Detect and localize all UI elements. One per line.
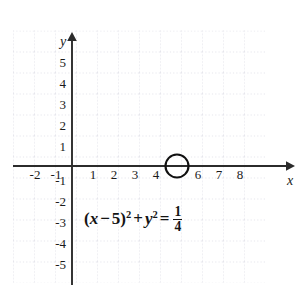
y-tick-label-4: 4	[52, 77, 66, 90]
y-tick-label-5: 5	[52, 56, 66, 69]
x-axis-arrowhead	[286, 161, 295, 171]
y-tick-label-1: 1	[52, 140, 66, 153]
equation-variable-x: x	[90, 209, 99, 228]
y-tick-label--2: -2	[48, 195, 66, 208]
x-tick-label-6: 6	[193, 168, 203, 181]
y-axis-label: y	[60, 35, 66, 49]
equation-exponent-2-right: 2	[153, 209, 158, 220]
x-tick-label-3: 3	[130, 168, 140, 181]
equation-fraction: 14	[173, 205, 182, 234]
y-tick-label-2: 2	[52, 119, 66, 132]
x-tick-label--2: -2	[28, 168, 42, 181]
y-tick-label--3: -3	[48, 216, 66, 229]
graph-canvas	[0, 0, 306, 298]
x-tick-label-2: 2	[109, 168, 119, 181]
x-tick-label-8: 8	[235, 168, 245, 181]
x-tick-label-7: 7	[214, 168, 224, 181]
fraction-numerator: 1	[173, 205, 182, 220]
equation-plus-sign: +	[131, 209, 145, 228]
equation-equals-sign: =	[158, 209, 172, 228]
y-tick-label--1: -1	[52, 174, 66, 187]
x-axis-label: x	[287, 174, 293, 188]
fraction-denominator: 4	[173, 220, 182, 234]
y-tick-label--4: -4	[48, 237, 66, 250]
y-tick-label-3: 3	[52, 98, 66, 111]
equation-variable-y: y	[145, 209, 153, 228]
x-tick-label-4: 4	[151, 168, 161, 181]
y-tick-label--5: -5	[48, 258, 66, 271]
equation-annotation: (x−5)2+y2=14	[84, 206, 182, 235]
x-tick-label-1: 1	[88, 168, 98, 181]
coordinate-plane-figure: y x -2 -1 1 2 3 4 6 7 8 5 4 3 2 1 -1 -2 …	[0, 0, 306, 298]
equation-minus-sign: −	[98, 209, 112, 228]
